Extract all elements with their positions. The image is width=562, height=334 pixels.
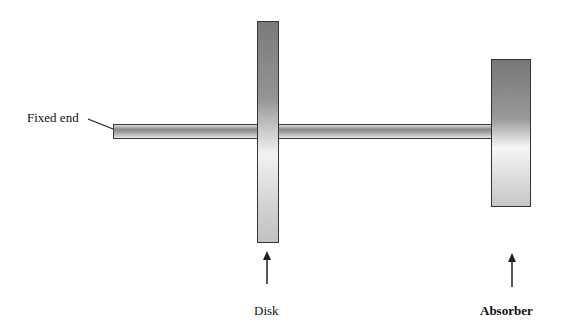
disk-arrow-icon: [263, 251, 271, 284]
absorber-arrow-icon: [508, 253, 516, 287]
fixed-end-label: Fixed end: [27, 110, 79, 126]
disk-label: Disk: [254, 303, 279, 319]
absorber-label: Absorber: [480, 303, 533, 319]
shaft: [113, 124, 493, 139]
fixed-end-leader-line: [0, 0, 562, 334]
disk: [257, 21, 279, 243]
absorber: [491, 59, 531, 207]
